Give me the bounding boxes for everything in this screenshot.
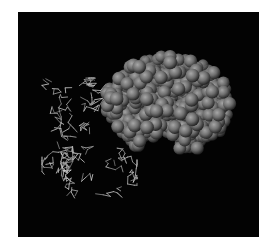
space-filling-model (100, 50, 236, 155)
molecule-viewport (18, 12, 259, 237)
molecule-scene (18, 12, 259, 237)
